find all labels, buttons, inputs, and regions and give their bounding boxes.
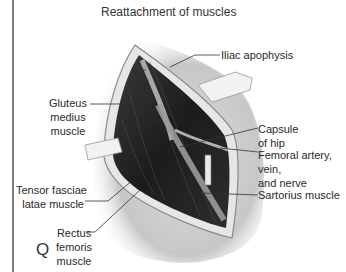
label-rectus-femoris: Rectus femoris muscle	[56, 226, 92, 268]
label-femoral-bundle: Femoral artery, vein, and nerve	[258, 148, 332, 190]
panel-letter: Q	[36, 240, 49, 260]
label-gluteus-medius: Gluteus medius muscle	[49, 96, 87, 138]
label-tensor-fasciae-latae: Tensor fasciae latae muscle	[16, 183, 84, 211]
label-sartorius: Sartorius muscle	[258, 188, 340, 202]
label-iliac-apophysis: Iliac apophysis	[221, 48, 293, 62]
femoral-vessels	[205, 155, 211, 185]
label-capsule-of-hip: Capsule of hip	[258, 122, 298, 150]
